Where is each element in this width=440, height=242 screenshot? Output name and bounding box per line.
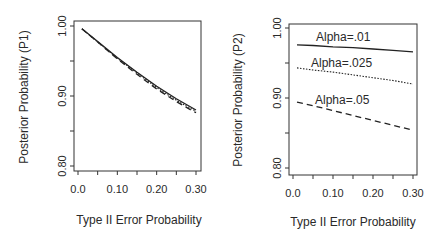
y-tick-label: 0.80	[56, 155, 68, 176]
x-tick-label: 0.20	[362, 187, 383, 199]
x-axis-label: Type II Error Probability	[76, 213, 201, 227]
y-axis-label: Posterior Probability (P1)	[17, 30, 31, 163]
x-axis-ticks: 0.00.100.200.30	[285, 175, 423, 199]
x-axis-label: Type II Error Probability	[290, 215, 415, 229]
x-axis-ticks: 0.00.100.200.30	[70, 171, 206, 195]
series-line	[297, 68, 413, 84]
series-lines	[82, 29, 196, 113]
y-tick-label: 0.90	[56, 85, 68, 106]
y-tick-label: 1.00	[56, 15, 68, 36]
annotation-alpha-05: Alpha=.05	[315, 93, 370, 107]
y-tick-label: 0.90	[271, 87, 283, 108]
y-axis-ticks: 0.800.901.00	[271, 17, 289, 178]
x-tick-label: 0.30	[402, 187, 423, 199]
series-line	[82, 29, 196, 110]
x-tick-label: 0.30	[185, 183, 206, 195]
annotation-alpha-01: Alpha=.01	[316, 30, 371, 44]
y-tick-label: 0.80	[271, 157, 283, 178]
chart-left-p1: 0.800.901.00 0.00.100.200.30 Posterior P…	[0, 0, 220, 242]
annotation-alpha-025: Alpha=.025	[311, 56, 372, 70]
series-line	[297, 45, 413, 52]
chart-right-p2: 0.800.901.00 0.00.100.200.30 Alpha=.01 A…	[220, 0, 440, 242]
x-tick-label: 0.10	[107, 183, 128, 195]
y-axis-ticks: 0.800.901.00	[56, 15, 74, 176]
plot-frame	[74, 21, 201, 171]
x-tick-label: 0.0	[70, 183, 85, 195]
x-tick-label: 0.10	[322, 187, 343, 199]
series-line	[82, 29, 196, 112]
x-tick-label: 0.0	[285, 187, 300, 199]
y-tick-label: 1.00	[271, 17, 283, 38]
y-axis-label: Posterior Probability (P2)	[231, 33, 245, 166]
x-tick-label: 0.20	[146, 183, 167, 195]
